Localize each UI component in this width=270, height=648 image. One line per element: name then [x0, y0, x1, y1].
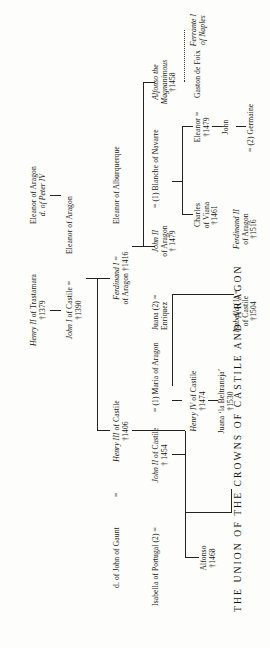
person-name: John II — [151, 230, 160, 252]
person-name: Henry II — [29, 319, 38, 346]
person-parentage: d. of John of Gaunt — [113, 527, 122, 588]
person-death: †1379 — [39, 264, 48, 356]
marriage-symbol: = — [151, 527, 160, 531]
line-isabella-riser — [185, 512, 232, 513]
marriage-order: (2) — [151, 533, 160, 542]
line-eleanor-foix-riser — [182, 126, 193, 127]
line-alfonso-drop — [185, 557, 199, 558]
marriage-order: (2) — [151, 301, 160, 310]
person-death: † 1479 — [169, 204, 178, 278]
person-charles-of-viana: Charles of Viana †1461 — [194, 186, 220, 244]
line-ferdinandi-sibling-bar — [143, 83, 144, 247]
person-death: † 1454 — [161, 410, 170, 500]
marriage-symbol-catherine-henryiii: = — [113, 493, 122, 497]
person-death: †1406 — [122, 374, 131, 488]
person-name: Isabella of Portugal — [151, 545, 160, 606]
line-john-foix-drop — [236, 126, 246, 127]
person-henry-ii-trastamara: Henry II of Trastamara †1379 — [30, 264, 47, 356]
person-qualifier: of Castile — [65, 287, 74, 317]
person-gaston-de-foix: Gaston de Foix — [194, 50, 203, 98]
line-ferdinandii-riser — [172, 294, 234, 295]
person-parentage: d. of Peter IV — [39, 146, 48, 244]
person-qualifier: of Trastamara — [29, 274, 38, 317]
marriage-symbol: = — [246, 148, 255, 152]
person-ferdinand-ii-aragon: Ferdinand II of Aragon †1516 — [233, 188, 259, 270]
person-alfonso-1468: Alfonso †1468 — [200, 530, 217, 586]
marriage-symbol: = — [151, 204, 160, 208]
person-eleanor-of-aragon-consort: Eleanor of Aragon — [66, 196, 75, 254]
person-name: Juana — [151, 312, 160, 330]
marriage-symbol: = — [65, 281, 74, 285]
person-name: John II — [151, 460, 160, 482]
person-death: †1474 — [199, 354, 208, 448]
person-name: Germaine — [246, 104, 255, 135]
person-surname: Enriquez — [161, 295, 170, 330]
person-isabella-of-portugal: Isabella of Portugal (2) = — [152, 527, 161, 606]
person-eleanor-of-aragon-peter-iv: Eleanor of Aragon d. of Peter IV — [30, 146, 47, 244]
line-eleanor-aragon-drop — [50, 195, 61, 196]
person-name: Eleanor of Aragon — [66, 196, 75, 254]
person-john-ii-castile: John II of Castile † 1454 — [152, 410, 169, 500]
marriage-order: (1) — [151, 192, 160, 201]
marriage-order: (1) — [151, 396, 160, 405]
person-name: Isabella — [232, 307, 241, 332]
person-henry-iii-castile: Henry III of Castile †1406 — [113, 374, 130, 488]
person-john-i-castile: John I of Castile = †1390 — [66, 258, 83, 362]
marriage-order: (1) — [232, 296, 241, 305]
person-eleanor-of-foix: Eleanor = †1479 — [194, 100, 211, 154]
line-ferdinandi-riser — [97, 278, 110, 279]
person-isabella-i-castile: Isabella (1) = of Castile †1504 — [233, 268, 259, 354]
person-death: †1468 — [209, 530, 218, 586]
person-name: John — [222, 106, 231, 148]
marriage-symbol: = — [151, 408, 160, 412]
line-johni-sibling-bar — [97, 279, 98, 431]
marriage-symbol-johnii-blanche: = (1) Blanche of Navarre — [152, 129, 161, 208]
person-death: †1516 — [250, 188, 259, 270]
line-charles-viana-riser — [182, 214, 193, 215]
genealogical-chart-plate: THE UNION OF THE CROWNS OF CASTILE AND A… — [0, 0, 270, 648]
line-henryiii-riser — [97, 430, 110, 431]
line-illegitimate-descent-ferrante — [184, 30, 185, 82]
person-john-of-foix: John — [222, 106, 231, 148]
line-henryiii-drop — [132, 430, 148, 431]
person-name: Eleanor — [193, 118, 202, 142]
person-qualifier: of Aragon — [121, 273, 130, 304]
line-johnii-castile-drop — [172, 454, 186, 455]
line-johnii-castile-children-bar — [185, 431, 186, 455]
person-name: Henry III — [112, 432, 121, 461]
person-name: John I — [65, 319, 74, 339]
marriage-order: (2) — [246, 136, 255, 145]
person-henry-iv-castile: Henry IV of Castile †1474 — [190, 354, 207, 448]
line-henryii-drop — [50, 310, 61, 311]
person-juana-la-beltraneja: Juana ‘la Beltraneja’ †1530 — [218, 352, 235, 450]
person-name: Henry IV — [189, 403, 198, 432]
person-eleanor-of-alburquerque: Eleanor of Alburquerque — [113, 146, 122, 224]
person-qualifier: of Castile — [112, 400, 121, 430]
line-johnii-aragon-children-bar — [182, 127, 183, 215]
person-death: †1416 — [121, 252, 130, 271]
person-qualifier: of Castile — [189, 370, 198, 400]
person-catherine-of-lancaster: d. of John of Gaunt — [113, 527, 122, 588]
marriage-symbol-johnii-maria: = (1) Maria of Aragon — [152, 342, 161, 412]
marriage-symbol: = — [193, 112, 202, 116]
person-death: †1461 — [211, 186, 220, 244]
person-alfonso-the-magnanimous: Alfonso the Magnanimous †1458 — [152, 40, 178, 124]
person-death: †1390 — [75, 258, 84, 362]
person-death: †1530 — [227, 352, 236, 450]
marriage-symbol: = — [151, 295, 160, 299]
line-isabella-branch — [231, 489, 232, 513]
person-name: Blanche of Navarre — [151, 129, 160, 190]
person-name: Gaston de Foix — [194, 50, 203, 98]
line-maria-aragon-drop — [172, 400, 182, 401]
line-henryiv-riser — [148, 430, 185, 431]
marriage-germaine: = (2) Germaine — [247, 104, 256, 152]
person-death: †1458 — [169, 40, 178, 124]
person-juana-enriquez: Juana (2) = Enriquez — [152, 295, 169, 330]
person-death: †1479 — [203, 100, 212, 154]
person-john-ii-aragon: John II of Aragon † 1479 — [152, 204, 178, 278]
person-ferdinand-i-aragon: Ferdinand I = of Aragon †1416 — [113, 226, 130, 330]
person-name: Maria of Aragon — [151, 342, 160, 394]
person-death: †1504 — [250, 268, 259, 354]
line-ferdinandii-long-rule — [172, 294, 173, 386]
line-alfonso-branch — [185, 454, 186, 558]
